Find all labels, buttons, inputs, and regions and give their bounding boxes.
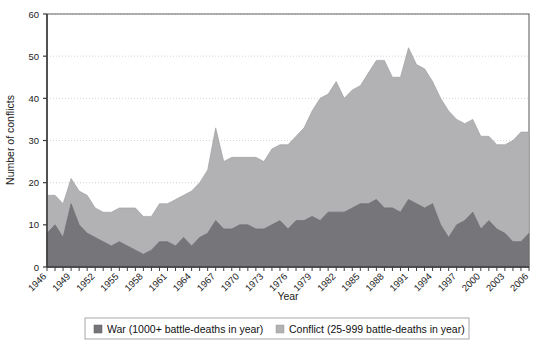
- x-axis-label: Year: [277, 290, 299, 302]
- chart-legend: War (1000+ battle-deaths in year) Confli…: [85, 318, 469, 339]
- y-tick-label: 30: [28, 135, 39, 146]
- y-tick-label: 60: [28, 9, 39, 20]
- y-tick-label: 0: [34, 262, 39, 273]
- y-tick-label: 40: [28, 93, 39, 104]
- legend-label-conflict: Conflict (25-999 battle-deaths in year): [289, 323, 465, 335]
- y-tick-label: 10: [28, 219, 39, 230]
- legend-label-war: War (1000+ battle-deaths in year): [107, 323, 263, 335]
- y-axis-label: Number of conflicts: [4, 95, 16, 185]
- plot-area: 0102030405060 19461949195219551958196119…: [26, 9, 531, 294]
- conflicts-area-chart: 0102030405060 19461949195219551958196119…: [0, 0, 551, 348]
- y-tick-label: 50: [28, 51, 39, 62]
- y-tick-label: 20: [28, 177, 39, 188]
- legend-swatch-war: [94, 325, 102, 333]
- legend-swatch-conflict: [276, 325, 284, 333]
